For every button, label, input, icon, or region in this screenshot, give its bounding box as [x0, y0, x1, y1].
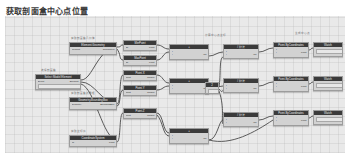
- output-port-label[interactable]: Point: [301, 85, 306, 88]
- add-node-2[interactable]: +xyvar: [169, 78, 209, 94]
- wire[interactable]: [259, 48, 273, 52]
- input-port-label[interactable]: y: [276, 85, 277, 88]
- watch-node-2[interactable]: Watch: [313, 76, 343, 91]
- select-section-box[interactable]: Select Model ElementSelectElement: [35, 74, 81, 90]
- number-two[interactable]: 2: [205, 82, 219, 94]
- input-port-label[interactable]: geometry: [72, 103, 82, 106]
- node-port-row: yPoint: [276, 119, 307, 122]
- geometry-bounding-box[interactable]: Geometry.BoundingBoxgeometryBoundingBox: [69, 97, 117, 110]
- input-port-label[interactable]: Select: [38, 80, 45, 83]
- point-bycoordinates-2[interactable]: Point.ByCoordinatesxyPoint: [273, 76, 309, 92]
- output-port-label[interactable]: Element: [70, 80, 79, 83]
- input-port-label[interactable]: point: [126, 76, 131, 79]
- bbox-max-point-body: bbPoint: [124, 60, 156, 65]
- input-port-label[interactable]: y: [226, 121, 227, 124]
- number-two-value-field[interactable]: [208, 89, 219, 94]
- wire[interactable]: [259, 82, 273, 86]
- page-title: 获取剖面盒中心点位置: [6, 5, 88, 17]
- divide-node-2[interactable]: / 除法xyvar: [223, 78, 259, 93]
- add-node-3[interactable]: +xyvar: [169, 128, 209, 144]
- watch-node-1[interactable]: Watch: [313, 42, 343, 57]
- output-port-label[interactable]: Point: [301, 119, 306, 122]
- point-x[interactable]: Point.Xpointdouble: [123, 70, 157, 81]
- watch-node-1-body: [314, 47, 342, 55]
- input-port-label[interactable]: point: [126, 91, 131, 94]
- point-bycoordinates-2-body: xyPoint: [274, 81, 308, 89]
- output-port-label[interactable]: Point: [149, 61, 154, 64]
- add-node-1[interactable]: +xyvar: [169, 44, 209, 60]
- divide-node-2-body: xyvar: [224, 83, 258, 91]
- output-port-label[interactable]: Point: [149, 46, 154, 49]
- node-port-row: geometryBoundingBox: [72, 103, 115, 106]
- point-bycoordinates-3[interactable]: Point.ByCoordinatesxyPoint: [273, 110, 309, 126]
- watch-node-3-value-field[interactable]: [316, 117, 343, 122]
- bbox-max-point[interactable]: MaxPointbbPoint: [123, 55, 157, 66]
- add-node-2-body: xyvar: [170, 83, 208, 91]
- select-section-box-value-field[interactable]: [38, 84, 81, 89]
- node-graph-canvas[interactable]: 选择剖面盒获取剖面盒几何体获取剖面盒边界框获取坐标值计算中心点坐标生成中心点 S…: [5, 16, 345, 153]
- output-port-label[interactable]: Point: [301, 51, 306, 54]
- output-port-label[interactable]: double: [147, 91, 154, 94]
- input-port-label[interactable]: y: [172, 87, 173, 90]
- input-port-label[interactable]: element: [72, 48, 81, 51]
- input-port-label[interactable]: y: [226, 53, 227, 56]
- wire[interactable]: [209, 120, 223, 140]
- watch-node-1-value-field[interactable]: [316, 49, 343, 54]
- input-port-label[interactable]: y: [172, 137, 173, 140]
- wire[interactable]: [157, 115, 169, 136]
- point-z[interactable]: Point.Zpointdouble: [123, 108, 157, 119]
- output-port-label[interactable]: Geometry[]: [103, 48, 115, 51]
- add-node-1-body: xyvar: [170, 49, 208, 57]
- divide-node-3[interactable]: / 除法xyvar: [223, 112, 259, 127]
- output-port-label[interactable]: var: [253, 53, 256, 56]
- point-y-body: pointdouble: [124, 90, 156, 95]
- wire[interactable]: [209, 52, 223, 56]
- geometry-bounding-box-body: geometryBoundingBox: [70, 102, 116, 107]
- wire[interactable]: [157, 86, 169, 90]
- node-port-row: yvar: [172, 53, 207, 56]
- output-port-label[interactable]: var: [253, 121, 256, 124]
- divide-node-1-body: xyvar: [224, 49, 258, 57]
- watch-node-3[interactable]: Watch: [313, 110, 343, 125]
- output-port-label[interactable]: var: [203, 53, 206, 56]
- input-port-label[interactable]: y: [276, 51, 277, 54]
- output-port-label[interactable]: var: [203, 137, 206, 140]
- output-port-label[interactable]: double: [147, 76, 154, 79]
- divide-node-1[interactable]: / 除法xyvar: [223, 44, 259, 59]
- input-port-label[interactable]: y: [276, 119, 277, 122]
- node-caption: 生成中心点: [295, 32, 310, 35]
- point-bycoordinates-1[interactable]: Point.ByCoordinatesxyPoint: [273, 42, 309, 58]
- element-geometry[interactable]: Element.GeometryelementGeometry[]: [69, 42, 117, 55]
- output-port-label[interactable]: double: [147, 114, 154, 117]
- node-port-row: pointdouble: [126, 114, 155, 117]
- output-port-label[interactable]: BoundingBox: [100, 103, 114, 106]
- input-port-label[interactable]: bb: [126, 61, 129, 64]
- node-port-row: yPoint: [276, 85, 307, 88]
- wire[interactable]: [157, 45, 169, 49]
- input-port-label[interactable]: bb: [126, 46, 129, 49]
- watch-node-2-value-field[interactable]: [316, 83, 343, 88]
- node-port-row: csPoint: [72, 141, 115, 144]
- coordinate-system[interactable]: CoordinateSystemcsPoint: [69, 135, 117, 147]
- input-port-label[interactable]: cs: [72, 141, 74, 144]
- wire[interactable]: [157, 75, 169, 83]
- wire[interactable]: [157, 113, 169, 133]
- output-port-label[interactable]: Point: [109, 141, 114, 144]
- wire[interactable]: [157, 52, 169, 60]
- input-port-label[interactable]: y: [226, 87, 227, 90]
- output-port-label[interactable]: var: [253, 87, 256, 90]
- point-y[interactable]: Point.Ypointdouble: [123, 85, 157, 96]
- input-port-label[interactable]: y: [172, 53, 173, 56]
- add-node-3-body: xyvar: [170, 133, 208, 141]
- select-section-box-body: SelectElement: [36, 79, 80, 90]
- node-caption: 获取剖面盒边界框: [71, 92, 95, 95]
- input-port-label[interactable]: point: [126, 114, 131, 117]
- node-port-row: bbPoint: [126, 46, 155, 49]
- bbox-min-point[interactable]: MinPointbbPoint: [123, 40, 157, 51]
- point-bycoordinates-1-body: xyPoint: [274, 47, 308, 55]
- node-caption: 选择剖面盒: [41, 69, 56, 72]
- divide-node-3-body: xyvar: [224, 117, 258, 125]
- bbox-min-point-body: bbPoint: [124, 45, 156, 50]
- wire[interactable]: [259, 116, 273, 120]
- element-geometry-body: elementGeometry[]: [70, 47, 116, 52]
